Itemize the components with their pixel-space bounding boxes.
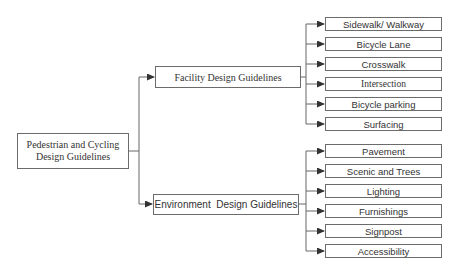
leaf-furnishings: Furnishings (325, 204, 442, 218)
leaf-label: Bicycle parking (352, 99, 416, 110)
leaf-sidewalk-walkway: Sidewalk/ Walkway (325, 17, 442, 31)
leaf-accessibility: Accessibility (325, 244, 442, 258)
leaf-label: Lighting (367, 186, 400, 197)
leaf-scenic-and-trees: Scenic and Trees (325, 164, 442, 178)
leaf-pavement: Pavement (325, 144, 442, 158)
leaf-label: Bicycle Lane (357, 39, 411, 50)
root-label-line-2: Design Guidelines (36, 151, 110, 163)
leaf-bicycle-lane: Bicycle Lane (325, 37, 442, 51)
diagram-canvas: Pedestrian and Cycling Design Guidelines… (0, 0, 457, 273)
leaf-label: Pavement (362, 146, 405, 157)
leaf-label: Intersection (361, 79, 406, 89)
facility-design-node: Facility Design Guidelines (155, 66, 301, 88)
root-node: Pedestrian and Cycling Design Guidelines (17, 133, 129, 169)
leaf-label: Crosswalk (362, 59, 406, 70)
leaf-label: Sidewalk/ Walkway (343, 19, 424, 30)
environment-design-node: Environment Design Guidelines (153, 194, 299, 215)
leaf-bicycle-parking: Bicycle parking (325, 97, 442, 111)
facility-design-label: Facility Design Guidelines (174, 72, 281, 83)
leaf-label: Signpost (365, 226, 402, 237)
leaf-surfacing: Surfacing (325, 117, 442, 131)
leaf-label: Accessibility (358, 246, 410, 257)
environment-design-label: Environment Design Guidelines (155, 199, 298, 210)
leaf-intersection: Intersection (325, 77, 442, 91)
leaf-label: Surfacing (363, 119, 403, 130)
leaf-lighting: Lighting (325, 184, 442, 198)
leaf-signpost: Signpost (325, 224, 442, 238)
leaf-label: Scenic and Trees (347, 166, 420, 177)
leaf-crosswalk: Crosswalk (325, 57, 442, 71)
root-label-line-1: Pedestrian and Cycling (27, 139, 120, 151)
leaf-label: Furnishings (359, 206, 408, 217)
